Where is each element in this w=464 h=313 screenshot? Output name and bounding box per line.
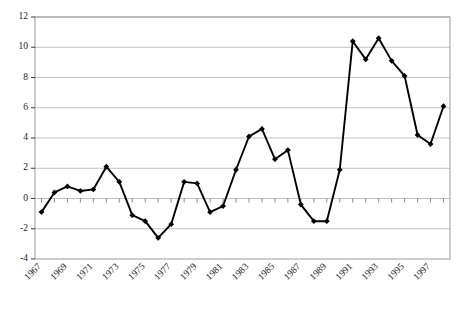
data-point-marker (220, 203, 226, 209)
line-chart: -4-2024681012 19671969197119731975197719… (0, 0, 464, 313)
x-tick-label-group: 1977 (152, 261, 173, 282)
x-tick-label: 1969 (48, 261, 69, 282)
x-tick-label: 1977 (152, 261, 173, 282)
x-tick-label-group: 1995 (386, 261, 407, 282)
x-axis-ticks (41, 199, 443, 203)
x-tick-label-group: 1993 (360, 261, 381, 282)
data-point-marker (77, 188, 83, 194)
y-axis-tick-labels: -4-2024681012 (19, 11, 29, 263)
y-tick-label: 6 (23, 102, 28, 112)
x-tick-label-group: 1981 (204, 261, 225, 282)
data-point-marker (65, 184, 71, 190)
x-tick-label-group: 1979 (178, 261, 199, 282)
x-tick-label: 1975 (126, 261, 147, 282)
x-tick-label: 1981 (204, 261, 225, 282)
x-tick-label: 1987 (282, 261, 303, 282)
data-point-marker (194, 180, 200, 186)
x-tick-label-group: 1967 (22, 261, 43, 282)
data-point-marker (129, 212, 135, 218)
x-tick-label: 1997 (411, 261, 432, 282)
y-tick-label: -2 (20, 223, 28, 233)
x-tick-label: 1979 (178, 261, 199, 282)
data-point-marker (324, 218, 330, 224)
x-tick-label: 1983 (230, 261, 251, 282)
x-tick-label-group: 1973 (100, 261, 121, 282)
data-point-marker (207, 209, 213, 215)
y-tick-label: 10 (19, 41, 29, 51)
x-tick-label: 1995 (386, 261, 407, 282)
y-tick-label: -4 (20, 253, 28, 263)
x-tick-label-group: 1997 (411, 261, 432, 282)
data-point-marker (337, 167, 343, 173)
x-tick-label-group: 1983 (230, 261, 251, 282)
y-tick-label: 2 (23, 162, 28, 172)
x-tick-label: 1993 (360, 261, 381, 282)
y-tick-label: 0 (23, 193, 28, 203)
x-tick-label-group: 1975 (126, 261, 147, 282)
x-tick-label-group: 1989 (308, 261, 329, 282)
y-axis-ticks (31, 17, 35, 259)
x-tick-label: 1973 (100, 261, 121, 282)
x-tick-label-group: 1971 (74, 261, 95, 282)
chart-canvas: -4-2024681012 19671969197119731975197719… (0, 0, 464, 313)
data-point-marker (233, 167, 239, 173)
x-tick-label-group: 1969 (48, 261, 69, 282)
x-tick-label: 1989 (308, 261, 329, 282)
x-tick-label: 1971 (74, 261, 95, 282)
x-tick-label-group: 1985 (256, 261, 277, 282)
y-tick-label: 12 (19, 11, 29, 21)
x-tick-label: 1991 (334, 261, 355, 282)
x-tick-label-group: 1987 (282, 261, 303, 282)
y-tick-label: 8 (23, 72, 28, 82)
grid-lines (35, 17, 450, 229)
y-tick-label: 4 (23, 132, 28, 142)
x-tick-label: 1985 (256, 261, 277, 282)
x-tick-label: 1967 (22, 261, 43, 282)
x-tick-label-group: 1991 (334, 261, 355, 282)
data-point-marker (181, 179, 187, 185)
data-point-marker (441, 103, 447, 109)
x-axis-tick-labels: 1967196919711973197519771979198119831985… (22, 261, 432, 282)
